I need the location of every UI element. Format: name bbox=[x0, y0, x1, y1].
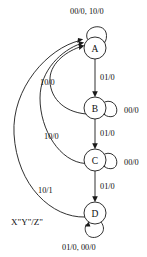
edge-label-a-self-loop: 00/0, 10/0 bbox=[70, 7, 104, 16]
state-label-c: C bbox=[92, 156, 98, 166]
state-node-c[interactable]: C bbox=[84, 149, 106, 171]
arrowhead-a-to-b bbox=[92, 91, 98, 97]
edge-label-d-self-loop: 01/0, 00/0 bbox=[62, 243, 96, 252]
edge-c-to-a bbox=[40, 44, 86, 164]
edge-label-c-to-d: 01/0 bbox=[100, 182, 115, 191]
state-diagram: A B C D 00/0, 10/0 01/0 00/0 01/0 00/0 0… bbox=[0, 0, 147, 257]
edge-label-b-to-a: 10/0 bbox=[40, 78, 55, 87]
fsm-canvas: A B C D 00/0, 10/0 01/0 00/0 01/0 00/0 0… bbox=[0, 0, 147, 257]
edge-label-c-self-loop: 00/0 bbox=[124, 158, 139, 167]
state-node-d[interactable]: D bbox=[84, 202, 106, 224]
state-node-b[interactable]: B bbox=[84, 97, 106, 119]
arrowhead-b-to-c bbox=[92, 143, 98, 149]
arrowhead-c-to-d bbox=[92, 196, 98, 202]
state-label-b: B bbox=[92, 104, 98, 114]
state-node-a[interactable]: A bbox=[84, 37, 106, 59]
edge-b-to-a bbox=[50, 47, 87, 115]
notation-caption: X"Y"/Z" bbox=[11, 217, 43, 227]
edge-label-d-to-a: 10/1 bbox=[38, 186, 53, 195]
state-label-d: D bbox=[92, 209, 99, 219]
state-label-a: A bbox=[92, 44, 99, 54]
edge-label-c-to-a: 10/0 bbox=[44, 132, 59, 141]
edge-label-b-to-c: 01/0 bbox=[100, 129, 115, 138]
edge-label-b-self-loop: 00/0 bbox=[124, 106, 139, 115]
edge-label-a-to-b: 01/0 bbox=[100, 73, 115, 82]
